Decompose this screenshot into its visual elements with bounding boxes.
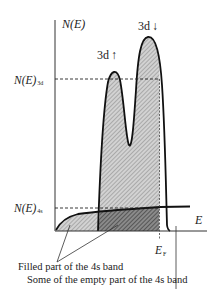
3d-down-label: 3d↓ xyxy=(138,19,158,33)
empty-4s-annotation: Some of the empty part of the 4s band xyxy=(27,274,188,285)
dos-diagram: N(E) 3d↑ 3d↓ N(E)3d N(E)4s E EF Filled p… xyxy=(0,0,218,300)
n4s-label: N(E)4s xyxy=(13,202,43,215)
3d-up-label: 3d↑ xyxy=(97,48,117,62)
n3d-label: N(E)3d xyxy=(13,74,43,87)
fermi-label: EF xyxy=(154,244,167,257)
y-axis-label: N(E) xyxy=(61,17,85,31)
x-axis-label: E xyxy=(194,213,203,227)
filled-4s-annotation: Filled part of the 4s band xyxy=(18,261,124,272)
